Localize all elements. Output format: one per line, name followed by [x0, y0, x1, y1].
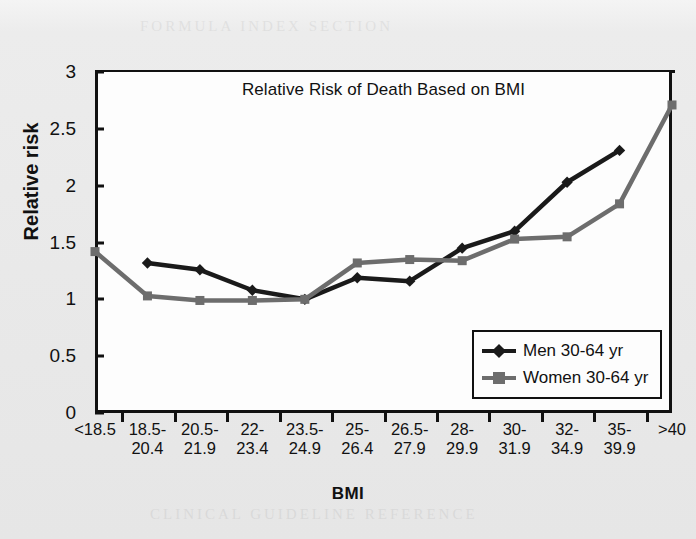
y-tick-mark [95, 184, 104, 187]
series-women [91, 100, 677, 305]
x-tick-mark [384, 413, 387, 422]
x-tick-mark [593, 413, 596, 422]
square-marker-icon [482, 371, 516, 385]
data-point-marker [300, 295, 309, 304]
diamond-marker-icon [482, 344, 516, 358]
data-point-marker [458, 256, 467, 265]
y-tick-mark [95, 412, 104, 415]
series-plot [0, 0, 696, 539]
y-tick-mark [95, 71, 104, 74]
data-point-marker [143, 291, 152, 300]
x-tick-mark [279, 413, 282, 422]
data-point-marker [563, 232, 572, 241]
data-point-marker [668, 100, 677, 109]
data-point-marker [247, 285, 258, 296]
scanned-figure-page: FORMULA INDEX SECTION NUTRITION AND WEIG… [0, 0, 696, 539]
data-point-marker [248, 296, 257, 305]
series-line [95, 105, 672, 301]
data-point-marker [195, 296, 204, 305]
chart-legend: Men 30-64 yrWomen 30-64 yr [472, 330, 662, 399]
data-point-marker [353, 258, 362, 267]
legend-label: Men 30-64 yr [523, 341, 623, 361]
legend-entry: Women 30-64 yr [482, 364, 652, 391]
x-tick-mark [121, 413, 124, 422]
x-tick-mark [174, 413, 177, 422]
y-tick-mark [95, 127, 104, 130]
data-point-marker [615, 199, 624, 208]
series-line [147, 150, 619, 299]
series-men [142, 145, 625, 305]
x-tick-mark [646, 413, 649, 422]
data-point-marker [510, 235, 519, 244]
data-point-marker [91, 247, 100, 256]
x-tick-mark [541, 413, 544, 422]
x-tick-mark [331, 413, 334, 422]
y-tick-mark [95, 298, 104, 301]
data-point-marker [405, 255, 414, 264]
legend-label: Women 30-64 yr [523, 368, 648, 388]
legend-entry: Men 30-64 yr [482, 337, 652, 364]
data-point-marker [142, 257, 153, 268]
y-tick-mark [95, 241, 104, 244]
y-tick-mark [95, 355, 104, 358]
x-tick-mark [488, 413, 491, 422]
x-tick-mark [226, 413, 229, 422]
x-tick-mark [436, 413, 439, 422]
data-point-marker [194, 264, 205, 275]
